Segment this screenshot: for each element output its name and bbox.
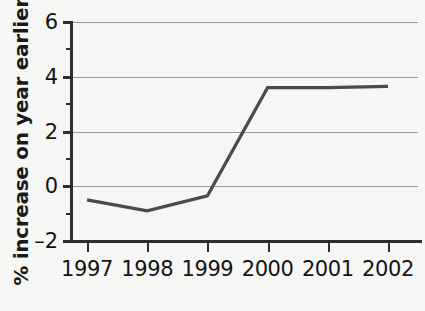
y-minor-tick-1 xyxy=(66,158,72,160)
x-tick-label-2002: 2002 xyxy=(362,257,414,281)
x-tick-mark-1998 xyxy=(147,243,149,252)
x-tick-label-1998: 1998 xyxy=(121,257,173,281)
plot-area xyxy=(72,22,418,241)
y-axis-labels: 6420–2 xyxy=(18,0,58,311)
x-tick-mark-1999 xyxy=(207,243,209,252)
y-tick-label-0: 0 xyxy=(22,174,58,198)
x-tick-mark-2001 xyxy=(328,243,330,252)
x-tick-label-1999: 1999 xyxy=(181,257,233,281)
line-chart: % increase on year earlier 6420–2 199719… xyxy=(0,0,425,311)
x-tick-mark-2000 xyxy=(268,243,270,252)
y-minor-tick--1 xyxy=(66,213,72,215)
gridline-4 xyxy=(72,77,418,78)
y-tick-mark-2 xyxy=(63,131,72,134)
gridline-2 xyxy=(72,132,418,133)
x-tick-label-1997: 1997 xyxy=(61,257,113,281)
y-tick-label--2: –2 xyxy=(22,229,58,253)
x-tick-label-2001: 2001 xyxy=(302,257,354,281)
y-tick-label-4: 4 xyxy=(22,65,58,89)
x-tick-label-2000: 2000 xyxy=(242,257,294,281)
gridline-0 xyxy=(72,186,418,187)
y-tick-mark-0 xyxy=(63,185,72,188)
x-tick-mark-2002 xyxy=(388,243,390,252)
gridline-6 xyxy=(72,22,418,23)
y-minor-tick-3 xyxy=(66,103,72,105)
x-axis-line xyxy=(70,240,422,243)
y-tick-label-6: 6 xyxy=(22,10,58,34)
x-tick-mark-1997 xyxy=(87,243,89,252)
y-tick-mark-4 xyxy=(63,76,72,79)
y-tick-mark--2 xyxy=(63,240,72,243)
y-minor-tick-5 xyxy=(66,48,72,50)
y-tick-mark-6 xyxy=(63,21,72,24)
y-tick-label-2: 2 xyxy=(22,120,58,144)
